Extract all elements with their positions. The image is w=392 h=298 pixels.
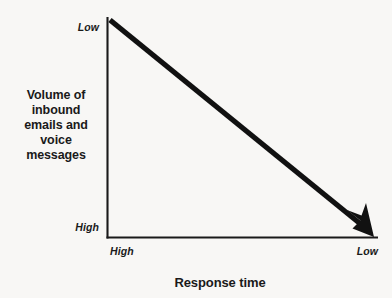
y-axis-title: Volume of inbound emails and voice messa… bbox=[8, 88, 104, 163]
chart-container: Volume of inbound emails and voice messa… bbox=[0, 0, 392, 298]
x-axis-tick-label-left: High bbox=[110, 245, 134, 257]
y-axis-tick-label-bottom: High bbox=[75, 221, 99, 233]
x-axis-title: Response time bbox=[120, 275, 320, 291]
y-axis-tick-label-top: Low bbox=[78, 21, 99, 33]
x-axis-tick-label-right: Low bbox=[357, 245, 378, 257]
